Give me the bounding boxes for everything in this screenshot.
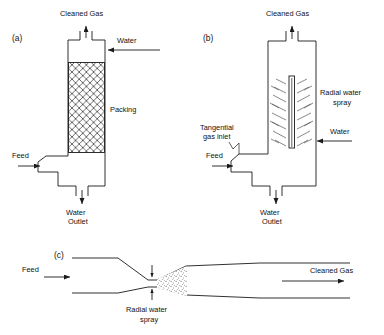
panel-b-feed-label: Feed [206, 151, 223, 160]
panel-b-spray-dashes-right [297, 79, 313, 146]
panel-b-tangential-label-2: gas inlet [203, 132, 231, 141]
panel-b-radial-spray-label-1: Radial water [320, 88, 362, 97]
panel-b-tangential-label-1: Tangential [200, 123, 234, 132]
panel-b-cleaned-gas-label: Cleaned Gas [266, 9, 309, 18]
panel-b-water-outlet [252, 154, 316, 204]
panel-a-cleaned-gas-label: Cleaned Gas [60, 9, 103, 18]
panel-b-spray-pipe [289, 76, 295, 148]
panel-b-label: (b) [203, 33, 213, 43]
panel-a-water-outlet-label-1: Water [66, 208, 86, 217]
panel-b-water-label: Water [330, 127, 350, 136]
panel-b-water-outlet-label-1: Water [260, 208, 280, 217]
panel-a-packing-bed [69, 63, 105, 153]
panel-b-spray-tower: (b) Cleaned Gas [200, 9, 362, 226]
panel-c-lower-wall [72, 287, 350, 298]
panel-c-radial-spray-label-2: spray [140, 315, 158, 324]
scrubber-figure: (a) Cleaned Gas Water [0, 0, 384, 335]
figure-canvas: (a) Cleaned Gas Water [0, 0, 384, 335]
panel-a-water-outlet-label-2: Outlet [68, 217, 88, 226]
panel-c-venturi-scrubber: (c) Feed Cleaned Gas Radial [22, 250, 353, 324]
panel-c-radial-spray-label-1: Radial water [126, 305, 168, 314]
panel-a-packed-bed-scrubber: (a) Cleaned Gas Water [12, 9, 160, 226]
panel-b-spray-dashes-left [270, 79, 286, 146]
panel-c-cleaned-gas-label: Cleaned Gas [310, 266, 353, 275]
panel-c-label: (c) [54, 250, 64, 260]
panel-c-droplet-cloud [157, 266, 187, 296]
panel-a-water-outlet [58, 156, 105, 204]
panel-a-water-label: Water [117, 36, 137, 45]
panel-b-water-outlet-label-2: Outlet [262, 217, 282, 226]
panel-a-packing-label: Packing [110, 105, 136, 114]
panel-c-upper-wall [72, 258, 350, 280]
panel-b-tangential-leader [229, 142, 239, 154]
panel-b-radial-spray-label-2: spray [333, 98, 351, 107]
panel-c-feed-label: Feed [22, 265, 39, 274]
panel-a-label: (a) [12, 33, 22, 43]
panel-a-feed-label: Feed [12, 151, 29, 160]
